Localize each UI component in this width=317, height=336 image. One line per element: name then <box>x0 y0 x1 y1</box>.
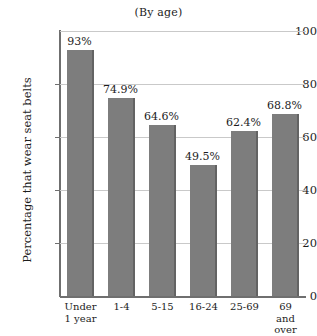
bar[interactable] <box>149 125 176 296</box>
gridline <box>60 31 306 32</box>
x-axis-label: 25-69 <box>230 301 259 313</box>
chart-title: (By age) <box>0 6 317 19</box>
bar[interactable] <box>272 114 299 296</box>
bar-value-label: 62.4% <box>226 116 261 129</box>
x-axis-label: 69 and over <box>270 301 302 336</box>
gridline <box>60 190 306 191</box>
x-axis-label: 16-24 <box>189 301 218 313</box>
gridline <box>60 84 306 85</box>
bar-value-label: 93% <box>67 35 91 48</box>
gridline <box>60 243 306 244</box>
bar[interactable] <box>190 165 217 296</box>
plot-area <box>60 31 306 296</box>
bar[interactable] <box>231 131 258 296</box>
bar[interactable] <box>108 98 135 296</box>
bar-value-label: 74.9% <box>103 83 138 96</box>
gridline <box>60 137 306 138</box>
x-axis-label: 1-4 <box>113 301 129 313</box>
bar-value-label: 49.5% <box>185 150 220 163</box>
y-axis-title: Percentage that wear seat belts <box>20 50 34 290</box>
gridline <box>60 296 306 298</box>
bar-chart: (By age) Percentage that wear seat belts… <box>0 0 317 336</box>
bar-value-label: 68.8% <box>267 99 302 112</box>
x-axis-label: Under 1 year <box>65 301 97 324</box>
x-axis-label: 5-15 <box>151 301 173 313</box>
bar[interactable] <box>67 50 94 296</box>
bar-value-label: 64.6% <box>144 110 179 123</box>
